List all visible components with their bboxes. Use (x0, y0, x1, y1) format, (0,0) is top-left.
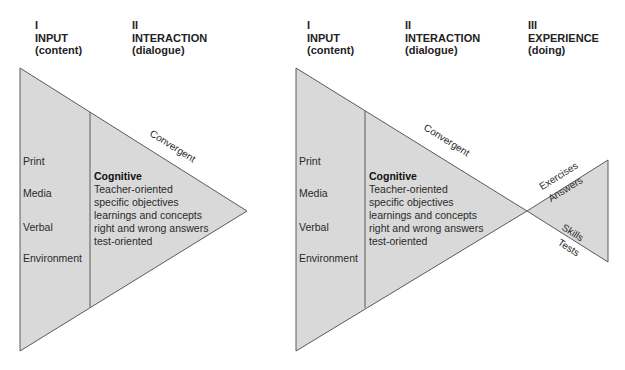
left-header-interaction: II INTERACTION (dialogue) (132, 19, 207, 57)
right-header-experience: III EXPERIENCE (doing) (528, 19, 599, 57)
right-cognitive-block: Cognitive Teacher-oriented specific obje… (369, 170, 483, 248)
header-title: EXPERIENCE (528, 32, 599, 45)
header-subtitle: (dialogue) (405, 44, 480, 57)
left-cognitive-block: Cognitive Teacher-oriented specific obje… (94, 170, 208, 248)
input-item-verbal: Verbal (299, 221, 329, 233)
header-subtitle: (content) (35, 44, 82, 57)
cognitive-line: right and wrong answers (369, 222, 483, 235)
cognitive-title: Cognitive (94, 170, 208, 183)
header-subtitle: (content) (307, 44, 354, 57)
input-item-media: Media (299, 187, 328, 199)
input-item-environment: Environment (299, 252, 358, 264)
header-subtitle: (doing) (528, 44, 599, 57)
cognitive-line: learnings and concepts (369, 209, 483, 222)
cognitive-line: test-oriented (94, 235, 208, 248)
header-title: INPUT (35, 32, 82, 45)
header-numeral: I (307, 19, 354, 32)
cognitive-line: Teacher-oriented (369, 183, 483, 196)
header-title: INTERACTION (132, 32, 207, 45)
right-header-input: I INPUT (content) (307, 19, 354, 57)
cognitive-line: right and wrong answers (94, 222, 208, 235)
input-item-media: Media (23, 187, 52, 199)
cognitive-line: Teacher-oriented (94, 183, 208, 196)
input-item-print: Print (23, 155, 45, 167)
header-title: INPUT (307, 32, 354, 45)
header-numeral: III (528, 19, 599, 32)
input-item-print: Print (299, 155, 321, 167)
header-numeral: II (405, 19, 480, 32)
right-header-interaction: II INTERACTION (dialogue) (405, 19, 480, 57)
input-item-verbal: Verbal (23, 221, 53, 233)
header-numeral: II (132, 19, 207, 32)
cognitive-title: Cognitive (369, 170, 483, 183)
header-numeral: I (35, 19, 82, 32)
cognitive-line: test-oriented (369, 235, 483, 248)
header-subtitle: (dialogue) (132, 44, 207, 57)
input-item-environment: Environment (23, 252, 82, 264)
header-title: INTERACTION (405, 32, 480, 45)
cognitive-line: specific objectives (94, 196, 208, 209)
left-header-input: I INPUT (content) (35, 19, 82, 57)
cognitive-line: specific objectives (369, 196, 483, 209)
cognitive-line: learnings and concepts (94, 209, 208, 222)
